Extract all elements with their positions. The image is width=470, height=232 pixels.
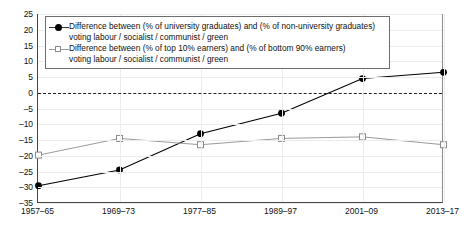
y-axis-tick-label: –25 [3, 167, 33, 177]
y-axis-tick-label: 0 [3, 88, 33, 98]
y-axis-tick-label: –30 [3, 182, 33, 192]
y-axis-tick-label: –10 [3, 119, 33, 129]
y-axis-tick-label: –5 [3, 104, 33, 114]
series-line [39, 72, 444, 185]
legend-label-line2: voting labour / socialist / communist / … [69, 32, 228, 42]
zero-reference-line [38, 93, 442, 94]
y-axis-tick-label: –15 [3, 135, 33, 145]
y-axis-tick-label: 5 [3, 72, 33, 82]
chart-legend: Difference between (% of university grad… [45, 16, 390, 69]
x-axis-tick-label: 2001–09 [345, 206, 378, 216]
y-axis-tick-label: 20 [3, 25, 33, 35]
x-axis-tick-label: 1957–65 [21, 206, 54, 216]
gridline-horizontal [38, 172, 442, 173]
y-axis-tick-label: –20 [3, 151, 33, 161]
open-square-marker-icon [49, 44, 69, 55]
legend-label-line2: voting labour / socialist / communist / … [69, 54, 228, 64]
gridline-horizontal [38, 156, 442, 157]
gridline-horizontal [38, 109, 442, 110]
gridline-horizontal [38, 14, 442, 15]
y-axis-tick-label: 10 [3, 56, 33, 66]
gridline-horizontal [38, 140, 442, 141]
legend-label-line1: Difference between (% of top 10% earners… [69, 43, 346, 53]
x-axis-tick-label: 2013–17 [426, 206, 459, 216]
gridline-horizontal [38, 124, 442, 125]
filled-circle-marker-icon [49, 22, 69, 33]
legend-item-top-earners: Difference between (% of top 10% earners… [49, 43, 385, 64]
y-axis: 2520151050–5–10–15–20–25–30–35 [0, 14, 33, 203]
x-axis-tick-label: 1989–97 [264, 206, 297, 216]
y-axis-tick-label: 15 [3, 41, 33, 51]
gridline-horizontal [38, 187, 442, 188]
chart-figure: 2520151050–5–10–15–20–25–30–35 1957–6519… [0, 0, 470, 232]
legend-item-university-graduates: Difference between (% of university grad… [49, 21, 385, 42]
gridline-horizontal [38, 203, 442, 204]
gridline-vertical [444, 14, 445, 202]
y-axis-tick-label: 25 [3, 9, 33, 19]
gridline-horizontal [38, 77, 442, 78]
x-axis-tick-label: 1969–73 [102, 206, 135, 216]
x-axis-tick-label: 1977–85 [183, 206, 216, 216]
x-axis: 1957–651969–731977–851989–972001–092013–… [37, 206, 443, 226]
legend-label-line1: Difference between (% of university grad… [69, 21, 375, 31]
